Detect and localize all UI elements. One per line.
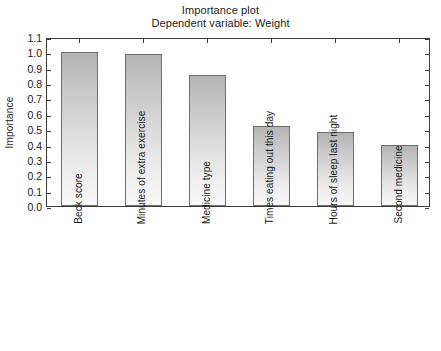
chart-title-block: Importance plot Dependent variable: Weig… bbox=[0, 4, 441, 30]
x-axis-category-labels: Beck scoreMinutes of extra exerciseMedic… bbox=[46, 209, 430, 349]
x-axis-label: Times eating out this day bbox=[238, 209, 302, 349]
chart-title: Importance plot bbox=[0, 4, 441, 17]
y-axis-tick-mark bbox=[425, 116, 429, 117]
x-axis-label-text: Minutes of extra exercise bbox=[137, 110, 148, 224]
y-axis-title-text: Importance bbox=[4, 96, 15, 148]
x-axis-label: Beck score bbox=[46, 209, 110, 349]
x-axis-label: Second medicine bbox=[366, 209, 430, 349]
y-axis-tick-mark bbox=[47, 162, 51, 163]
y-axis-tick-mark bbox=[47, 193, 51, 194]
x-axis-tick-mark bbox=[335, 39, 336, 43]
y-axis-tick-mark bbox=[425, 70, 429, 71]
x-axis-label-text: Beck score bbox=[73, 174, 84, 224]
y-axis-tick-mark bbox=[47, 54, 51, 55]
x-axis-tick-mark bbox=[79, 39, 80, 43]
y-tick-label: 0.4 bbox=[16, 141, 42, 151]
y-axis-tick-mark bbox=[425, 54, 429, 55]
y-axis-tick-mark bbox=[425, 39, 429, 40]
plot-area bbox=[46, 38, 430, 207]
x-axis-tick-mark bbox=[143, 39, 144, 43]
x-axis-tick-mark bbox=[207, 39, 208, 43]
y-axis-tick-mark bbox=[425, 162, 429, 163]
y-tick-label: 0.0 bbox=[16, 202, 42, 212]
y-axis-tick-mark bbox=[47, 70, 51, 71]
chart-subtitle: Dependent variable: Weight bbox=[0, 17, 441, 30]
y-tick-label: 0.8 bbox=[16, 79, 42, 89]
y-axis-tick-mark bbox=[425, 131, 429, 132]
y-tick-label: 0.7 bbox=[16, 94, 42, 104]
x-axis-tick-mark bbox=[399, 39, 400, 43]
y-tick-label: 0.1 bbox=[16, 187, 42, 197]
y-axis-tick-mark bbox=[47, 85, 51, 86]
y-tick-label: 0.3 bbox=[16, 156, 42, 166]
y-axis-tick-mark bbox=[425, 147, 429, 148]
x-axis-label-text: Hours of sleep last night bbox=[329, 114, 340, 224]
x-axis-label-text: Times eating out this day bbox=[265, 111, 276, 224]
y-axis-tick-mark bbox=[425, 177, 429, 178]
y-axis-tick-labels: 1.11.00.90.80.70.60.50.40.30.20.10.0 bbox=[16, 38, 42, 207]
y-tick-label: 0.9 bbox=[16, 64, 42, 74]
y-tick-label: 1.0 bbox=[16, 48, 42, 58]
y-tick-label: 0.2 bbox=[16, 171, 42, 181]
y-axis-tick-mark bbox=[425, 100, 429, 101]
y-axis-tick-mark bbox=[47, 116, 51, 117]
y-axis-tick-mark bbox=[47, 39, 51, 40]
y-axis-tick-mark bbox=[425, 193, 429, 194]
x-axis-label: Hours of sleep last night bbox=[302, 209, 366, 349]
y-axis-tick-mark bbox=[47, 147, 51, 148]
y-axis-tick-mark bbox=[47, 177, 51, 178]
x-axis-label: Minutes of extra exercise bbox=[110, 209, 174, 349]
x-axis-label-text: Medicine type bbox=[201, 161, 212, 224]
y-tick-label: 0.6 bbox=[16, 110, 42, 120]
y-axis-title: Importance bbox=[2, 38, 16, 207]
y-axis-tick-mark bbox=[47, 100, 51, 101]
y-tick-label: 1.1 bbox=[16, 33, 42, 43]
y-tick-label: 0.5 bbox=[16, 125, 42, 135]
x-axis-label-text: Second medicine bbox=[393, 146, 404, 224]
x-axis-tick-mark bbox=[271, 39, 272, 43]
y-axis-tick-mark bbox=[47, 131, 51, 132]
y-axis-tick-mark bbox=[425, 85, 429, 86]
x-axis-label: Medicine type bbox=[174, 209, 238, 349]
